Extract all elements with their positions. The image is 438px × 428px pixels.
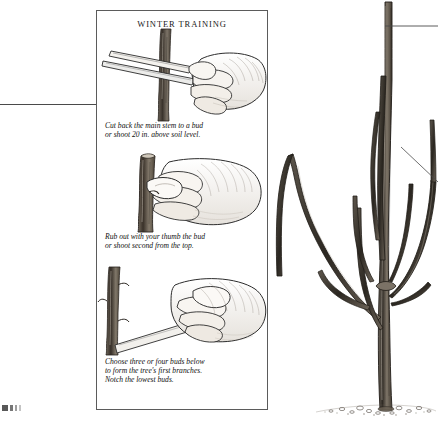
page-divider-rule [0, 104, 97, 105]
step-3: Choose three or four buds below to form … [97, 267, 267, 385]
hand-rubbing-out-bud-with-thumb-icon [97, 152, 267, 232]
caption-line: Notch the lowest buds. [105, 375, 261, 384]
step-2-caption: Rub out with your thumb the bud or shoot… [97, 232, 267, 251]
soil-stipple [316, 405, 436, 416]
step-1: Cut back the main stem to a bud or shoot… [97, 29, 267, 140]
caption-line: Cut back the main stem to a bud [105, 121, 261, 130]
step-1-caption: Cut back the main stem to a bud or shoot… [97, 121, 267, 140]
young-tree-with-branches-illustration [268, 0, 438, 428]
step-2: Rub out with your thumb the bud or shoot… [97, 152, 267, 251]
hand-with-knife-notching-stem-icon [97, 267, 267, 355]
panel-title: WINTER TRAINING [97, 19, 267, 29]
winter-training-panel: WINTER TRAINING [96, 10, 268, 410]
caption-line: or shoot 20 in. above soil level. [105, 130, 261, 139]
caption-line: Choose three or four buds below [105, 357, 261, 366]
caption-line: or shoot second from the top. [105, 241, 261, 250]
hand-with-pruning-shears-cutting-stem-icon [97, 29, 267, 121]
caption-line: Rub out with your thumb the bud [105, 232, 261, 241]
caption-line: to form the tree's first branches. [105, 366, 261, 375]
page-edge-mark [2, 405, 24, 411]
step-3-caption: Choose three or four buds below to form … [97, 357, 267, 385]
